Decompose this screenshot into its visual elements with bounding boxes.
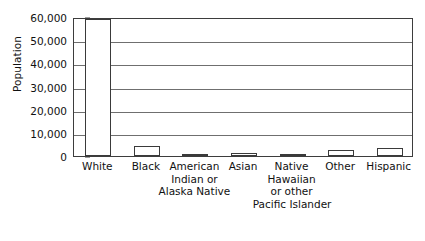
y-tick-label: 20,000 [16,106,67,116]
x-tick-label-line: Hawaiian [253,173,331,186]
x-tick-label-line: or other [253,185,331,198]
bar-slot [123,19,172,156]
bar [231,153,257,156]
plot-area [73,18,413,157]
bar-series [74,19,412,156]
bar-slot [365,19,414,156]
y-tick-label: 40,000 [16,59,67,69]
y-tick-label: 60,000 [16,13,67,23]
x-tick-label: Hispanic [350,160,425,173]
x-tick-label-line: Indian or [156,173,234,186]
bar [328,150,354,156]
bar-slot [220,19,269,156]
bar [182,154,208,156]
bar-slot [171,19,220,156]
y-tick-label: 30,000 [16,83,67,93]
bar [134,146,160,156]
bar-slot [74,19,123,156]
x-tick-label-line: Alaska Native [156,185,234,198]
bar [85,19,111,156]
bar [280,154,306,156]
x-axis-tick-labels: WhiteBlackAmericanIndian orAlaska Native… [73,160,413,230]
y-tick-label: 50,000 [16,36,67,46]
x-tick-label-line: Hispanic [350,160,425,173]
x-tick-label-line: Pacific Islander [253,198,331,211]
bar-chart-figure: Population 010,00020,00030,00040,00050,0… [0,0,425,241]
y-tick-label: 10,000 [16,129,67,139]
y-axis-tick-labels: 010,00020,00030,00040,00050,00060,000 [16,11,67,163]
bar [377,148,403,156]
bar-slot [268,19,317,156]
bar-slot [317,19,366,156]
